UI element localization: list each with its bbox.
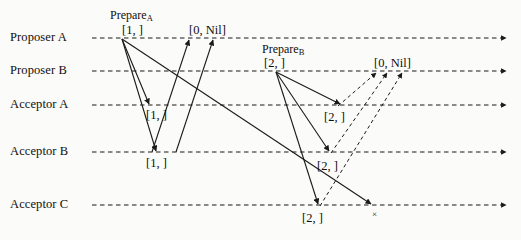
dropped-message-x: × (372, 209, 377, 219)
diagram-canvas (0, 0, 521, 240)
message-arrow-promise-b-from-acceptor-a (338, 73, 376, 106)
message-label-accept-b-acceptor-c: [2, ] (302, 211, 323, 226)
lane-label-acceptor-a: Acceptor A (10, 97, 68, 112)
phase-label-text: Prepare (262, 42, 299, 56)
lane-label-proposer-a: Proposer A (10, 30, 67, 45)
message-label-prepare-a-value: [1, ] (122, 23, 143, 38)
message-label-accept-b-acceptor-b: [2, ] (317, 159, 338, 174)
message-label-promise-a-value: [0, Nil] (189, 23, 226, 38)
phase-label-prepare-b: PrepareB (262, 42, 304, 57)
message-arrow-prepare-b-to-acceptor-a (276, 72, 340, 104)
message-label-accept-a-acceptor-b: [1, ] (146, 156, 167, 171)
lane-label-proposer-b: Proposer B (10, 63, 67, 78)
message-arrow-prepare-a-to-acceptor-b (122, 39, 156, 151)
message-arrow-prepare-b-to-acceptor-b (276, 72, 329, 151)
dashed-message-group (320, 73, 402, 206)
phase-label-subscript: B (299, 47, 305, 57)
message-label-promise-b-value: [0, Nil] (374, 56, 411, 71)
message-label-prepare-b-value: [2, ] (264, 56, 285, 71)
message-arrow-prepare-b-to-acceptor-c (276, 72, 318, 204)
lane-label-acceptor-b: Acceptor B (10, 144, 68, 159)
phase-label-text: Prepare (110, 8, 147, 22)
message-label-accept-b-acceptor-a: [2, ] (324, 110, 345, 125)
message-label-accept-a-acceptor-a: [1, ] (146, 108, 167, 123)
message-arrow-promise-to-proposer-a-1 (152, 40, 189, 152)
message-arrow-promise-b-from-acceptor-c (320, 73, 402, 206)
paxos-sequence-diagram: Proposer AProposer BAcceptor AAcceptor B… (0, 0, 521, 240)
phase-label-subscript: A (147, 13, 153, 23)
lane-label-acceptor-c: Acceptor C (10, 197, 68, 212)
phase-label-prepare-a: PrepareA (110, 8, 153, 23)
